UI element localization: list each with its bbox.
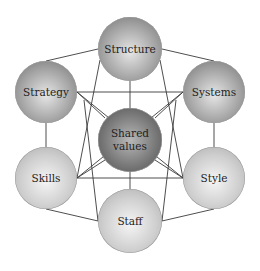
node-staff-label: Staff xyxy=(117,215,142,228)
node-style-label: Style xyxy=(201,172,228,185)
node-systems: Systems xyxy=(183,61,245,123)
node-structure-label: Structure xyxy=(104,43,155,56)
edge-systems-staff xyxy=(162,100,176,221)
edge-structure-systems xyxy=(162,49,214,61)
node-shared-values: Shared values xyxy=(98,108,162,172)
edge-structure-strategy xyxy=(46,49,98,61)
node-shared-values-label: Shared values xyxy=(111,127,149,153)
node-style: Style xyxy=(183,147,245,209)
node-skills-label: Skills xyxy=(31,172,60,185)
edge-structure-style xyxy=(160,60,183,178)
node-staff: Staff xyxy=(98,189,162,253)
node-strategy-label: Strategy xyxy=(23,86,69,99)
edge-skills-staff xyxy=(46,209,98,221)
node-structure: Structure xyxy=(98,17,162,81)
edge-strategy-staff xyxy=(84,100,98,221)
node-systems-label: Systems xyxy=(192,86,236,99)
node-strategy: Strategy xyxy=(15,61,77,123)
node-skills: Skills xyxy=(15,147,77,209)
edge-style-staff xyxy=(162,209,214,221)
edge-structure-skills xyxy=(77,60,100,178)
